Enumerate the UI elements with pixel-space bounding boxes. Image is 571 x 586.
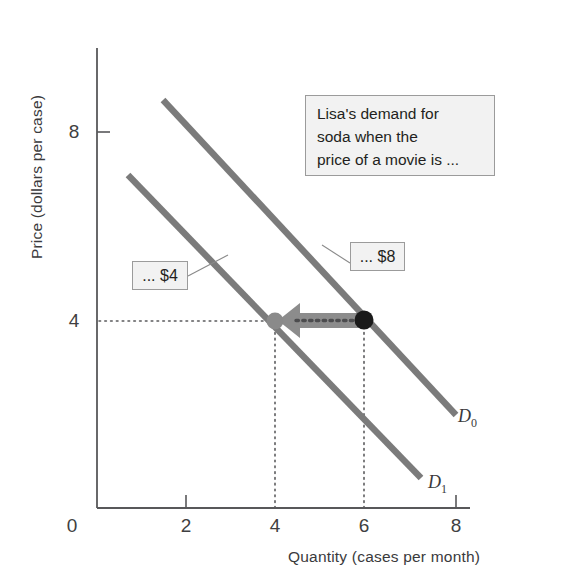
leader-line-d0	[322, 245, 350, 263]
x-tick-label-4: 4	[263, 515, 287, 537]
y-tick-label-8: 8	[62, 121, 86, 143]
curve-label-d1: D1	[428, 472, 447, 497]
x-axis-title: Quantity (cases per month)	[288, 548, 480, 566]
x-tick-label-6: 6	[352, 515, 376, 537]
y-axis-title: Price (dollars per case)	[28, 62, 46, 292]
curve-label-d0-base: D	[458, 406, 471, 426]
x-tick-label-0: 0	[60, 515, 84, 537]
curve-label-d0: D0	[458, 406, 477, 431]
x-tick-label-2: 2	[174, 515, 198, 537]
note-line-1: Lisa's demand for	[317, 102, 485, 125]
leftward-shift-arrow	[278, 303, 362, 338]
point-on-d1	[267, 313, 284, 330]
curve-label-d1-subscript: 1	[441, 482, 447, 496]
demand-curve-figure: Price (dollars per case) Quantity (cases…	[0, 0, 571, 586]
curve-label-d0-subscript: 0	[471, 416, 477, 430]
callout-d0-price: ... $8	[350, 242, 405, 271]
plot-area	[0, 0, 571, 586]
demand-description-box: Lisa's demand for soda when the price of…	[305, 95, 495, 176]
curve-label-d1-base: D	[428, 472, 441, 492]
callout-d1-price: ... $4	[132, 261, 188, 290]
note-line-3: price of a movie is ...	[317, 148, 485, 171]
point-on-d0	[355, 311, 374, 330]
x-tick-label-8: 8	[444, 515, 468, 537]
y-tick-label-4: 4	[62, 310, 86, 332]
note-line-2: soda when the	[317, 125, 485, 148]
